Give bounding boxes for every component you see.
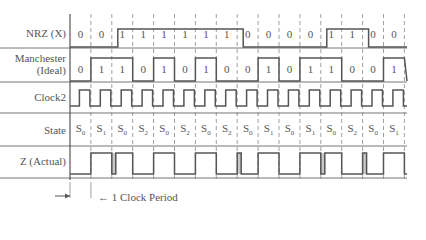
- manchester-bit: 0: [216, 63, 237, 75]
- row-label-clock2: Clock2: [34, 91, 66, 103]
- clock-period-annotation: ← 1 Clock Period: [98, 191, 178, 203]
- state-cell: S0: [195, 122, 216, 137]
- row-label-manchester: Manchester(Ideal): [15, 52, 66, 76]
- nrz-bit: 0: [363, 28, 384, 40]
- state-cell: S0: [112, 122, 133, 137]
- state-cell: S0: [237, 122, 258, 137]
- row-label-nrz: NRZ (X): [26, 27, 66, 39]
- manchester-bit: 1: [91, 63, 112, 75]
- state-cell: S2: [216, 122, 237, 137]
- clock2-waveform: [70, 90, 407, 106]
- nrz-bit: 0: [91, 28, 112, 40]
- state-cell: S2: [175, 122, 196, 137]
- manchester-bit: 1: [384, 63, 405, 75]
- row-label-z: Z (Actual): [20, 155, 66, 167]
- state-cell: S1: [258, 122, 279, 137]
- nrz-bit: 0: [384, 28, 405, 40]
- nrz-bit: 1: [216, 28, 237, 40]
- manchester-bit: 0: [237, 63, 258, 75]
- state-cell: S0: [154, 122, 175, 137]
- nrz-bit: 0: [70, 28, 91, 40]
- state-cell: S2: [342, 122, 363, 137]
- nrz-bit: 1: [133, 28, 154, 40]
- nrz-bit: 1: [342, 28, 363, 40]
- nrz-bit: 1: [112, 28, 133, 40]
- manchester-bit: 0: [342, 63, 363, 75]
- manchester-bit: 0: [70, 63, 91, 75]
- nrz-bit: 1: [321, 28, 342, 40]
- arrowhead-icon: [65, 194, 70, 199]
- nrz-bit: 0: [300, 28, 321, 40]
- state-cell: S0: [70, 122, 91, 137]
- manchester-bit: 1: [321, 63, 342, 75]
- state-cell: S0: [279, 122, 300, 137]
- state-cell: S0: [363, 122, 384, 137]
- manchester-bit: 1: [258, 63, 279, 75]
- nrz-bit: 0: [258, 28, 279, 40]
- state-cell: S2: [133, 122, 154, 137]
- nrz-bit: 0: [237, 28, 258, 40]
- manchester-bit: 1: [154, 63, 175, 75]
- manchester-bit: 1: [195, 63, 216, 75]
- manchester-bit: 0: [133, 63, 154, 75]
- nrz-bit: 1: [154, 28, 175, 40]
- nrz-bit: 1: [175, 28, 196, 40]
- state-cell: S1: [91, 122, 112, 137]
- state-cell: S1: [384, 122, 405, 137]
- manchester-bit: 0: [363, 63, 384, 75]
- manchester-bit: 1: [300, 63, 321, 75]
- manchester-bit: 1: [112, 63, 133, 75]
- row-label-state: State: [44, 124, 66, 136]
- nrz-bit: 1: [195, 28, 216, 40]
- nrz-bit: 0: [279, 28, 300, 40]
- manchester-bit: 0: [175, 63, 196, 75]
- state-cell: S0: [321, 122, 342, 137]
- manchester-bit: 0: [279, 63, 300, 75]
- state-cell: S1: [300, 122, 321, 137]
